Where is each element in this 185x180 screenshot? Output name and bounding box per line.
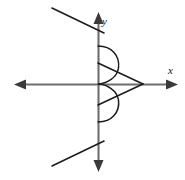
upper-ray-to-cusp: [98, 63, 143, 84]
coordinate-plane-figure: x y: [0, 0, 185, 180]
x-axis-group: x: [14, 64, 178, 90]
x-axis-right-arrowhead: [166, 80, 178, 90]
y-axis-down-arrowhead: [94, 160, 104, 172]
x-axis-left-arrowhead: [14, 80, 26, 90]
lower-ray-to-cusp: [98, 84, 143, 105]
figure-container: x y: [0, 0, 185, 180]
y-axis-group: y: [94, 12, 108, 172]
x-axis-label: x: [167, 64, 173, 76]
y-axis-label: y: [101, 15, 107, 27]
